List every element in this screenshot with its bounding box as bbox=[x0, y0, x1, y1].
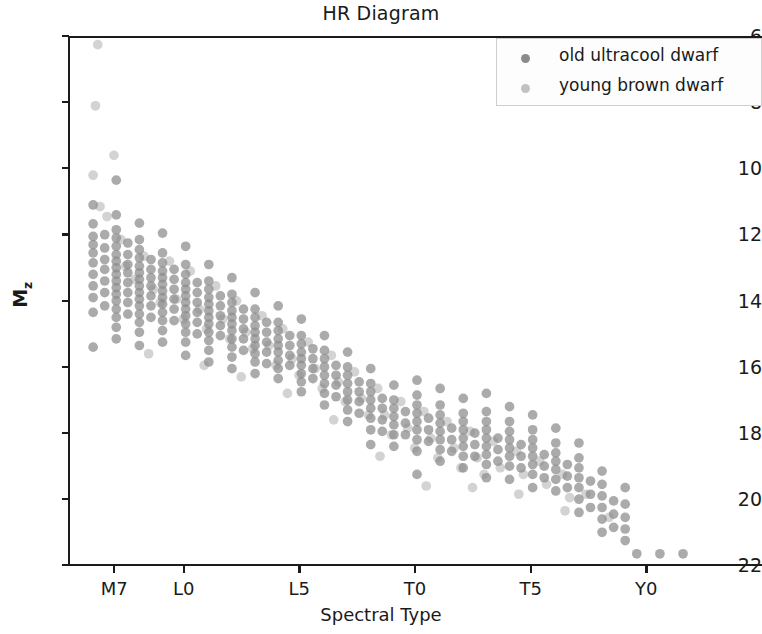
x-axis-tick-label: Y0 bbox=[616, 578, 676, 599]
scatter-canvas bbox=[70, 38, 762, 565]
legend-item-label: young brown dwarf bbox=[559, 75, 723, 95]
legend-item-label: old ultracool dwarf bbox=[559, 45, 718, 65]
x-axis-tick-mark bbox=[113, 565, 115, 573]
legend: old ultracool dwarf young brown dwarf bbox=[496, 38, 762, 106]
y-axis-label-subscript: z bbox=[21, 282, 35, 289]
legend-marker-icon bbox=[521, 84, 530, 93]
x-axis-label: Spectral Type bbox=[0, 604, 762, 625]
x-axis-tick-label: L0 bbox=[154, 578, 214, 599]
plot-area bbox=[68, 36, 762, 565]
y-axis-label: Mz bbox=[9, 265, 35, 325]
legend-item-young-brown-dwarf[interactable]: young brown dwarf bbox=[497, 73, 762, 103]
x-axis-tick-mark bbox=[298, 565, 300, 573]
chart-title: HR Diagram bbox=[0, 2, 762, 24]
x-axis-tick-label: M7 bbox=[84, 578, 144, 599]
hr-diagram-figure: HR Diagram Mz 6810121416182022 M7L0L5T0T… bbox=[0, 0, 762, 634]
x-axis-tick-mark bbox=[183, 565, 185, 573]
y-axis-label-base: M bbox=[9, 289, 31, 308]
x-axis-tick-label: T5 bbox=[501, 578, 561, 599]
x-axis-tick-label: T0 bbox=[385, 578, 445, 599]
x-axis-tick-mark bbox=[645, 565, 647, 573]
legend-marker-icon bbox=[521, 54, 530, 63]
x-axis-tick-mark bbox=[530, 565, 532, 573]
x-axis-tick-label: L5 bbox=[269, 578, 329, 599]
x-axis-tick-mark bbox=[414, 565, 416, 573]
legend-item-old-ultracool-dwarf[interactable]: old ultracool dwarf bbox=[497, 43, 762, 73]
